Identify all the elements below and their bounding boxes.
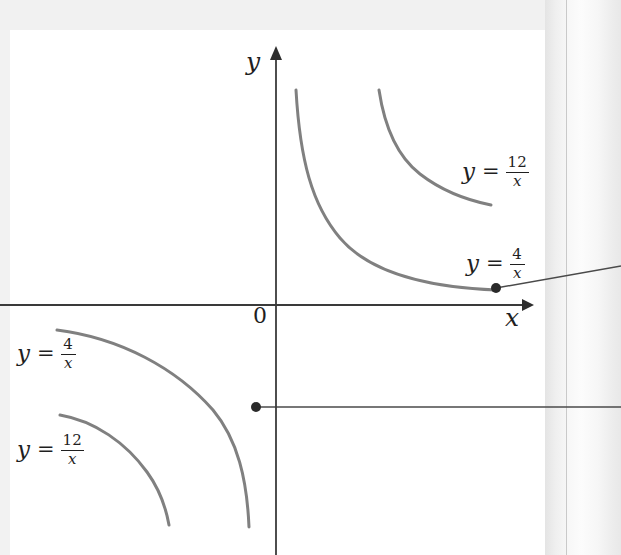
origin-label: 0 — [253, 303, 267, 328]
curve-label-equals: = — [486, 253, 504, 274]
x-axis-arrowhead — [522, 299, 534, 311]
curve-label-fraction: 12 x — [61, 433, 84, 468]
fraction-numerator: 4 — [510, 247, 524, 263]
fraction-numerator: 12 — [506, 155, 529, 171]
fraction-numerator: 12 — [61, 433, 84, 449]
curve-label-quadrant3-4-over-x: y = 4 x — [17, 336, 76, 371]
curve-label-equals: = — [37, 343, 55, 364]
curve-label-quadrant1-4-over-x: y = 4 x — [466, 246, 525, 281]
curve-label-fraction: 12 x — [506, 155, 529, 190]
curve-label-lhs: y — [466, 252, 479, 275]
y-axis-arrowhead — [270, 46, 282, 60]
y-axis-label: y — [246, 47, 260, 76]
curve-label-fraction: 4 x — [61, 337, 76, 372]
curve-label-lhs: y — [462, 160, 475, 183]
fraction-denominator: x — [511, 174, 523, 190]
curve-label-quadrant1-12-over-x: y = 12 x — [462, 154, 529, 189]
marked-point-upper — [491, 283, 501, 293]
curve-label-lhs: y — [17, 342, 30, 365]
fraction-numerator: 4 — [61, 337, 75, 353]
curve-label-quadrant3-12-over-x: y = 12 x — [17, 432, 84, 467]
fraction-denominator: x — [66, 452, 78, 468]
curve-label-fraction: 4 x — [510, 247, 525, 282]
curve-y-equals-4-over-x-quadrant-3 — [57, 330, 249, 527]
x-axis-label: x — [505, 303, 519, 332]
fraction-denominator: x — [62, 356, 74, 372]
marked-point-lower — [251, 402, 261, 412]
curve-label-lhs: y — [17, 438, 30, 461]
fraction-denominator: x — [511, 266, 523, 282]
curve-label-equals: = — [482, 161, 500, 182]
graph-canvas — [0, 0, 621, 555]
figure-page: y x 0 y = 12 x y = 4 x y = 4 x y = 12 — [0, 0, 621, 555]
curve-label-equals: = — [37, 439, 55, 460]
